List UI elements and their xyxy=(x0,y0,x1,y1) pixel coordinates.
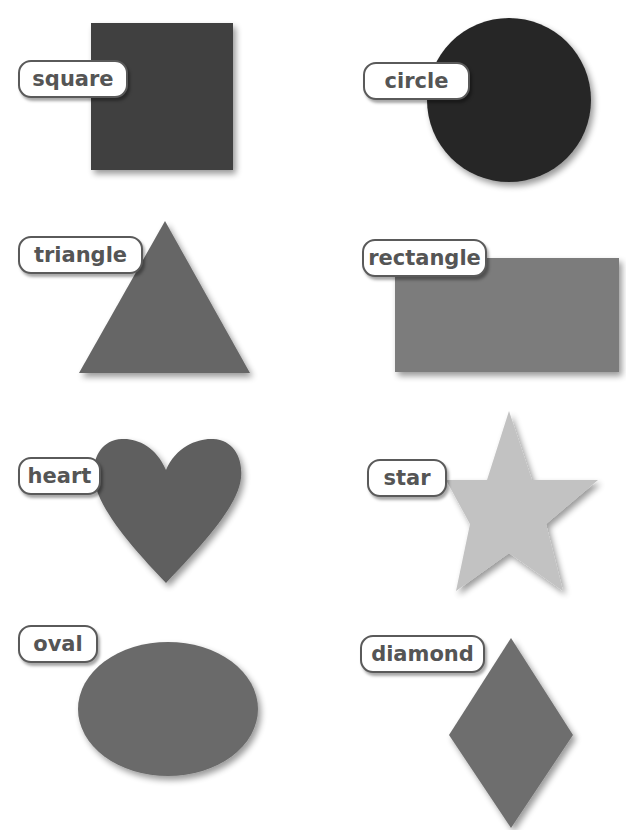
label-oval: oval xyxy=(18,625,98,663)
label-triangle: triangle xyxy=(18,236,143,274)
label-heart: heart xyxy=(18,457,101,495)
circle-shape xyxy=(427,18,591,182)
label-diamond: diamond xyxy=(360,635,485,673)
star-shape xyxy=(446,411,598,591)
oval-shape xyxy=(78,642,258,776)
label-square: square xyxy=(18,60,128,98)
label-star: star xyxy=(367,459,447,497)
heart-shape xyxy=(94,439,242,583)
label-rectangle: rectangle xyxy=(362,239,487,277)
shapes-canvas xyxy=(0,0,626,830)
label-circle: circle xyxy=(363,62,470,100)
